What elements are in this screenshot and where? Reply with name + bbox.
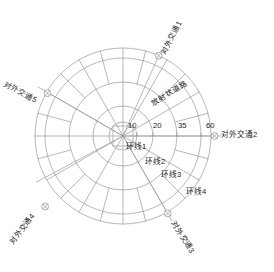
outer-spoke-75: [137, 188, 146, 221]
tick-label-60: 60: [206, 122, 215, 130]
axis-tick-marks: [137, 133, 201, 137]
spoke-240: [79, 60, 123, 136]
outer-spoke-195: [38, 113, 71, 122]
tick-label-35: 35: [178, 122, 187, 130]
ring-label-2: 环线2: [145, 158, 165, 166]
external-node-2[interactable]: [211, 133, 218, 140]
ring-label-1: 环线1: [126, 143, 146, 151]
tick-label-10: 10: [128, 122, 137, 130]
ring-road-diagram-canvas: 放射状道路 10 20 35 60 环线1 环线2 环线3 环线4 对外交通1 …: [0, 0, 274, 272]
outer-spoke-285: [137, 51, 146, 84]
outer-spoke-135: [61, 174, 85, 198]
outer-spoke-225: [61, 74, 85, 98]
external-traffic-label-2: 对外交通2: [221, 131, 257, 139]
ring-label-3: 环线3: [161, 171, 181, 179]
outer-spoke-105: [100, 188, 109, 221]
outer-spoke-15: [175, 150, 208, 159]
outer-spoke-165: [38, 150, 71, 159]
diagram-geometry: [35, 48, 221, 224]
tick-label-20: 20: [153, 122, 162, 130]
external-connector-legs: [37, 56, 222, 221]
external-node-3[interactable]: [164, 210, 171, 217]
spoke-150: [47, 136, 123, 180]
external-node-5[interactable]: [44, 90, 51, 97]
ring-label-4: 环线4: [186, 188, 206, 196]
external-node-4[interactable]: [42, 203, 49, 210]
outer-spoke-255: [100, 51, 109, 84]
